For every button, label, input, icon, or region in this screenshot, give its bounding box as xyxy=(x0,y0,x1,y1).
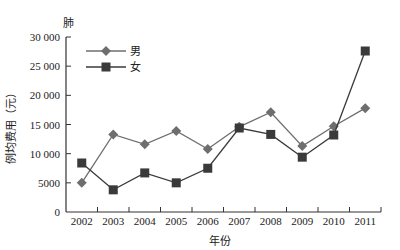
series-square xyxy=(77,47,370,195)
diamond-marker xyxy=(171,126,181,136)
square-marker xyxy=(266,130,275,139)
x-tick-label: 2009 xyxy=(291,215,314,227)
square-marker xyxy=(172,178,181,187)
series-diamond xyxy=(77,103,371,188)
y-tick-label: 10 000 xyxy=(30,148,61,160)
legend-label: 男 xyxy=(130,45,141,57)
legend-label: 女 xyxy=(130,60,141,73)
legend-item: 女 xyxy=(86,60,141,73)
y-tick-label: 30 000 xyxy=(30,31,61,43)
diamond-marker xyxy=(77,178,87,188)
x-tick-label: 2004 xyxy=(134,215,157,227)
diamond-marker xyxy=(203,144,213,154)
square-marker xyxy=(203,164,212,173)
square-marker xyxy=(77,159,86,168)
diamond-marker xyxy=(360,103,370,113)
square-marker xyxy=(361,47,370,56)
x-tick-label: 2008 xyxy=(260,215,283,227)
x-tick-label: 2002 xyxy=(71,215,93,227)
y-tick-label: 5000 xyxy=(38,177,61,189)
x-tick-label: 2003 xyxy=(102,215,125,227)
y-tick-label: 20 000 xyxy=(30,89,61,101)
y-tick-label: 0 xyxy=(55,206,61,218)
square-marker xyxy=(298,153,307,162)
diamond-marker xyxy=(140,139,150,149)
x-tick-label: 2011 xyxy=(354,215,376,227)
y-tick-label: 15 000 xyxy=(30,119,61,131)
square-marker xyxy=(235,124,244,133)
y-tick-label: 25 000 xyxy=(30,60,61,72)
line-chart: 0500010 00015 00020 00025 00030 00020022… xyxy=(0,0,400,250)
x-tick-label: 2010 xyxy=(323,215,346,227)
square-marker xyxy=(140,168,149,177)
legend: 男女 xyxy=(86,45,141,73)
square-marker xyxy=(329,131,338,140)
x-tick-label: 2006 xyxy=(197,215,220,227)
x-tick-label: 2007 xyxy=(228,215,251,227)
diamond-marker xyxy=(101,46,111,56)
square-marker xyxy=(102,63,111,72)
x-tick-label: 2005 xyxy=(165,215,188,227)
legend-item: 男 xyxy=(86,45,141,57)
square-marker xyxy=(109,185,118,194)
diamond-marker xyxy=(108,129,118,139)
series-lines xyxy=(77,47,371,195)
